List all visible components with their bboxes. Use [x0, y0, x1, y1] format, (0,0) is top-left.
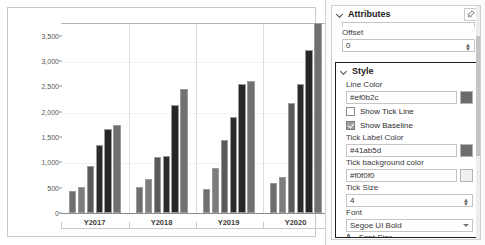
offset-input[interactable]: 0 ▲ ▼	[342, 39, 475, 52]
tick-background-color-input[interactable]: #f0f0f0	[346, 169, 457, 182]
chart-bar[interactable]	[87, 166, 95, 213]
tick-size-stepper[interactable]: ▲ ▼	[462, 196, 470, 207]
offset-row: 0 ▲ ▼	[332, 39, 480, 52]
chart-bar[interactable]	[314, 23, 322, 213]
tick-size-label: Tick Size	[336, 182, 478, 194]
chart-bar[interactable]	[279, 177, 287, 213]
show-baseline-label: Show Baseline	[360, 121, 413, 130]
panel-scrollbar-track[interactable]	[476, 6, 480, 239]
attributes-section-header[interactable]: Attributes	[332, 6, 480, 22]
tick-label-color-input[interactable]: #41ab5d	[346, 144, 457, 157]
chart-bar[interactable]	[113, 125, 121, 213]
line-color-swatch[interactable]	[460, 91, 473, 104]
tick-size-row: 4 ▲ ▼	[336, 194, 478, 207]
chart-bar[interactable]	[230, 117, 238, 213]
group-separator	[196, 24, 197, 213]
chart-bar[interactable]	[212, 168, 220, 213]
chart-bar[interactable]	[238, 84, 246, 213]
chart-bar[interactable]	[78, 187, 86, 213]
tick-size-value: 4	[350, 196, 354, 205]
y-axis-tick-label: 1,000	[21, 159, 63, 166]
truncated-field-input[interactable]	[342, 22, 475, 27]
y-axis-tick-label: 500	[21, 184, 63, 191]
y-axis-tick-mark	[59, 86, 62, 87]
chart-bar[interactable]	[96, 145, 104, 213]
show-tick-line-row[interactable]: Show Tick Line	[336, 104, 478, 118]
chart-bar[interactable]	[136, 187, 144, 213]
line-color-label: Line Color	[336, 79, 478, 91]
chart-bar[interactable]	[305, 50, 313, 213]
chevron-down-icon[interactable]	[463, 224, 469, 227]
show-baseline-checkbox[interactable]	[346, 121, 355, 130]
plot-area	[61, 23, 329, 213]
show-baseline-row[interactable]: Show Baseline	[336, 118, 478, 132]
offset-stepper[interactable]: ▲ ▼	[464, 41, 472, 52]
attributes-panel-inner: Attributes Offset 0 ▲ ▼	[331, 5, 481, 240]
x-axis-bracket	[61, 222, 330, 229]
y-axis-tick-mark	[59, 137, 62, 138]
tick-label-color-swatch[interactable]	[460, 144, 473, 157]
truncated-field-row[interactable]	[332, 22, 480, 27]
tick-background-color-row: #f0f0f0	[336, 169, 478, 182]
panel-scrollbar-thumb[interactable]	[476, 36, 480, 156]
y-axis-tick-label: 0	[21, 210, 63, 217]
show-tick-line-label: Show Tick Line	[360, 107, 414, 116]
font-size-label: Font Size	[359, 233, 393, 238]
chart-frame: 05001,0001,5002,0002,5003,0003,500 Y2017…	[7, 7, 316, 237]
font-label: Font	[336, 207, 478, 219]
line-color-row: #ef0b2c	[336, 91, 478, 104]
tick-background-color-swatch[interactable]	[460, 169, 473, 182]
stepper-down-icon[interactable]: ▼	[463, 202, 469, 206]
chart-bar[interactable]	[171, 105, 179, 213]
bars-layer	[62, 24, 328, 213]
chart-bar[interactable]	[69, 191, 77, 213]
style-section-title: Style	[352, 66, 374, 76]
chart-bar[interactable]	[270, 183, 278, 213]
x-axis-line	[61, 213, 330, 214]
chart-pane: 05001,0001,5002,0002,5003,0003,500 Y2017…	[0, 0, 325, 245]
chart-bar[interactable]	[221, 140, 229, 213]
tick-background-color-label: Tick background color	[336, 157, 478, 169]
line-color-input[interactable]: #ef0b2c	[346, 91, 457, 104]
y-axis-tick-mark	[59, 111, 62, 112]
font-value: Segoe UI Bold	[350, 221, 402, 230]
chart-bar[interactable]	[145, 179, 153, 213]
bracket-tick	[263, 222, 264, 229]
tick-label-color-label: Tick Label Color	[336, 132, 478, 144]
chart-bar[interactable]	[180, 89, 188, 213]
font-row: Segoe UI Bold	[336, 219, 478, 232]
gridline	[62, 62, 328, 63]
stepper-down-icon[interactable]: ▼	[465, 47, 471, 51]
attributes-panel: Attributes Offset 0 ▲ ▼	[325, 0, 485, 245]
app-root: 05001,0001,5002,0002,5003,0003,500 Y2017…	[0, 0, 485, 245]
group-separator	[263, 24, 264, 213]
bracket-tick	[129, 222, 130, 229]
chart-bar[interactable]	[203, 189, 211, 213]
chart-bar[interactable]	[163, 156, 171, 213]
chart-bar[interactable]	[297, 84, 305, 213]
y-axis-tick-mark	[59, 213, 62, 214]
bracket-tick	[196, 222, 197, 229]
y-axis-tick-mark	[59, 61, 62, 62]
y-axis-tick-label: 2,500	[21, 83, 63, 90]
plot-outer: 05001,0001,5002,0002,5003,0003,500 Y2017…	[21, 15, 319, 221]
font-select[interactable]: Segoe UI Bold	[346, 219, 473, 232]
style-section-header[interactable]: Style	[336, 63, 478, 79]
chevron-down-icon[interactable]	[340, 67, 349, 76]
tick-label-color-row: #41ab5d	[336, 144, 478, 157]
tick-size-input[interactable]: 4 ▲ ▼	[346, 194, 473, 207]
show-tick-line-checkbox[interactable]	[346, 107, 355, 116]
y-axis-tick-mark	[59, 162, 62, 163]
chart-bar[interactable]	[247, 81, 255, 213]
chart-bar[interactable]	[104, 129, 112, 213]
style-section-box: Style Line Color #ef0b2c Show Tick Line …	[335, 62, 479, 238]
attributes-section-title: Attributes	[348, 9, 391, 19]
chart-bar[interactable]	[154, 157, 162, 213]
chevron-down-icon[interactable]	[336, 10, 345, 19]
y-axis-tick-label: 1,500	[21, 134, 63, 141]
chart-bar[interactable]	[288, 103, 296, 213]
y-axis-tick-mark	[59, 187, 62, 188]
font-size-label-row: AA Font Size	[336, 232, 478, 238]
y-axis-tick-label: 3,000	[21, 58, 63, 65]
y-axis-tick-label: 3,500	[21, 32, 63, 39]
